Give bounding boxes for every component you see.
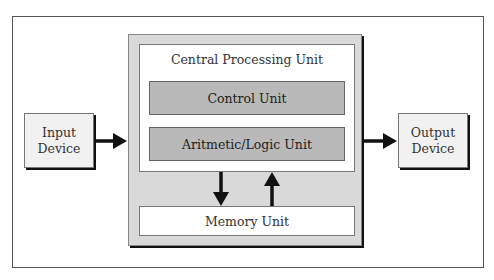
memory-to-cpu-arrow	[264, 172, 280, 206]
cpu-to-memory-arrow	[213, 172, 229, 206]
arrows-layer	[0, 0, 494, 280]
cpu-to-output-arrow	[364, 133, 397, 149]
input-to-cpu-arrow	[94, 133, 127, 149]
